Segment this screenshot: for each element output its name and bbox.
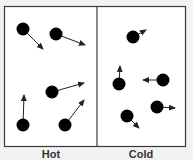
cold-particle-3 [157, 74, 170, 87]
cold-particle-2 [113, 78, 126, 91]
hot-particle-4 [17, 119, 30, 132]
hot-particle-3 [46, 86, 59, 99]
particle-diagram: Hot Cold [0, 0, 193, 160]
cold-particle-4 [121, 110, 134, 123]
hot-particle-5 [59, 119, 72, 132]
hot-particle-1 [17, 23, 30, 36]
hot-particle-2 [50, 28, 63, 41]
hot-label: Hot [42, 148, 61, 160]
cold-particle-1 [127, 31, 140, 44]
cold-particle-5 [151, 101, 164, 114]
cold-label: Cold [129, 148, 153, 160]
